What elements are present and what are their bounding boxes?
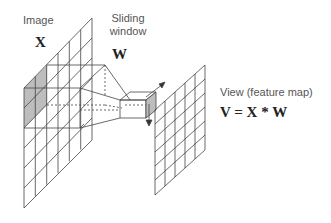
convolution-diagram — [0, 0, 331, 223]
image-plane — [24, 18, 92, 208]
